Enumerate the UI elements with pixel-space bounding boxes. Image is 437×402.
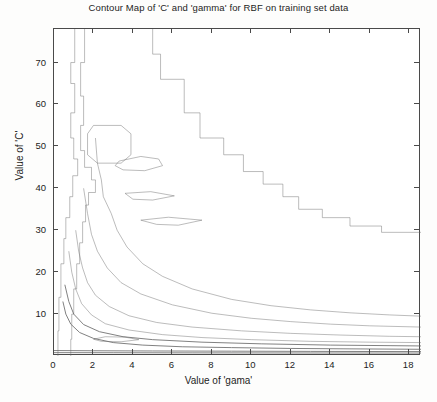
- contour-line: [84, 188, 421, 327]
- contour-lines-svg: [54, 29, 421, 356]
- x-tick-mark: [369, 28, 370, 33]
- x-tick-label: 6: [169, 359, 174, 370]
- y-tick-mark: [53, 145, 58, 146]
- x-tick-label: 10: [245, 359, 256, 370]
- x-tick-mark: [250, 28, 251, 33]
- x-tick-mark: [329, 349, 330, 354]
- contour-line: [95, 138, 421, 316]
- contour-line: [115, 156, 162, 170]
- x-tick-mark: [53, 349, 54, 354]
- contour-line: [88, 125, 131, 163]
- contour-line: [58, 29, 78, 356]
- x-tick-mark: [408, 349, 409, 354]
- x-tick-mark: [132, 28, 133, 33]
- y-tick-mark: [414, 313, 419, 314]
- x-tick-mark: [171, 28, 172, 33]
- x-tick-label: 12: [284, 359, 295, 370]
- y-tick-mark: [53, 62, 58, 63]
- x-tick-mark: [408, 28, 409, 33]
- x-tick-mark: [53, 28, 54, 33]
- x-tick-mark: [211, 349, 212, 354]
- x-tick-label: 14: [324, 359, 335, 370]
- x-tick-mark: [92, 28, 93, 33]
- y-tick-mark: [414, 229, 419, 230]
- x-tick-mark: [290, 28, 291, 33]
- y-tick-mark: [53, 271, 58, 272]
- y-tick-mark: [53, 103, 58, 104]
- x-tick-label: 0: [50, 359, 55, 370]
- x-tick-mark: [329, 28, 330, 33]
- x-tick-label: 2: [90, 359, 95, 370]
- x-tick-mark: [171, 349, 172, 354]
- y-tick-mark: [414, 103, 419, 104]
- x-tick-mark: [250, 349, 251, 354]
- contour-chart-figure: Contour Map of 'C' and 'gamma' for RBF o…: [0, 0, 437, 402]
- x-tick-label: 4: [129, 359, 134, 370]
- x-axis-label: Value of 'gama': [0, 375, 437, 386]
- contour-line: [141, 217, 202, 225]
- x-tick-mark: [290, 349, 291, 354]
- y-axis-label: Value of 'C': [14, 106, 25, 206]
- contour-line: [153, 29, 421, 232]
- contour-line: [71, 29, 96, 356]
- x-tick-label: 18: [403, 359, 414, 370]
- y-tick-mark: [414, 62, 419, 63]
- x-tick-mark: [92, 349, 93, 354]
- contour-line: [76, 230, 421, 336]
- x-tick-label: 8: [208, 359, 213, 370]
- y-tick-mark: [414, 187, 419, 188]
- y-tick-mark: [53, 187, 58, 188]
- y-tick-label: 20: [20, 266, 46, 277]
- y-tick-label: 70: [20, 56, 46, 67]
- contour-line: [125, 192, 174, 200]
- x-tick-mark: [369, 349, 370, 354]
- y-tick-label: 10: [20, 308, 46, 319]
- contour-line: [69, 251, 421, 342]
- x-tick-mark: [132, 349, 133, 354]
- y-tick-mark: [414, 145, 419, 146]
- y-tick-mark: [414, 271, 419, 272]
- y-tick-mark: [53, 313, 58, 314]
- plot-area: [53, 28, 420, 355]
- y-tick-mark: [53, 229, 58, 230]
- y-tick-label: 30: [20, 224, 46, 235]
- x-tick-label: 16: [363, 359, 374, 370]
- chart-title: Contour Map of 'C' and 'gamma' for RBF o…: [0, 2, 437, 13]
- x-tick-mark: [211, 28, 212, 33]
- contour-line: [54, 351, 421, 352]
